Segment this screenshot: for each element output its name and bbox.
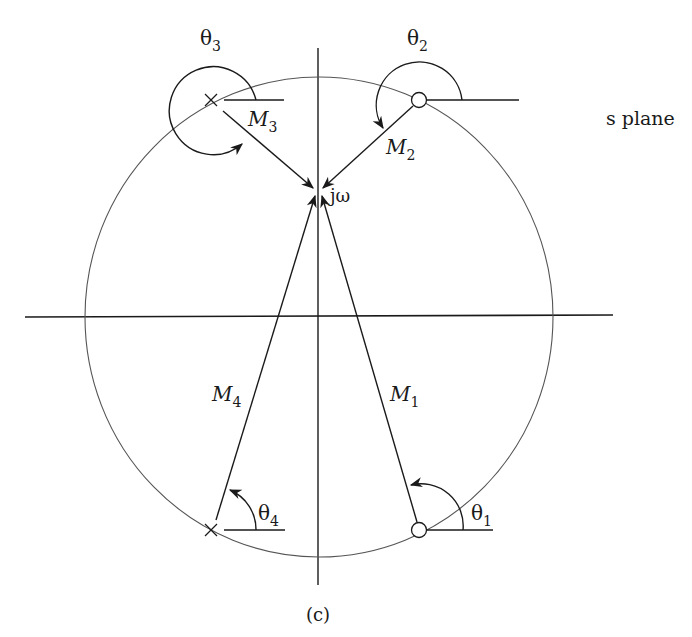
label-m1: M1 xyxy=(389,382,419,410)
label-m2: M2 xyxy=(385,135,415,163)
figure-caption: (c) xyxy=(306,604,330,625)
vector-m1 xyxy=(322,196,417,522)
label-m4: M4 xyxy=(211,382,241,410)
angle-arc-theta3 xyxy=(169,67,256,155)
s-plane-diagram: θ3 θ2 θ4 θ1 M3 M2 M4 M1 jω s plane (c) xyxy=(0,0,692,637)
label-theta1: θ1 xyxy=(471,501,492,529)
pole-marker-4 xyxy=(205,524,217,536)
zero-marker-2 xyxy=(412,93,427,108)
label-m3: M3 xyxy=(247,107,277,135)
label-theta4: θ4 xyxy=(258,501,279,529)
zero-marker-1 xyxy=(412,523,427,538)
label-s-plane: s plane xyxy=(606,107,675,129)
vector-m4 xyxy=(216,196,315,520)
real-axis xyxy=(25,315,613,317)
label-theta3: θ3 xyxy=(200,26,221,54)
label-jw: jω xyxy=(328,185,350,206)
label-theta2: θ2 xyxy=(407,26,428,54)
angle-arc-theta4 xyxy=(230,490,256,530)
